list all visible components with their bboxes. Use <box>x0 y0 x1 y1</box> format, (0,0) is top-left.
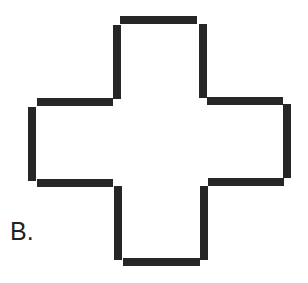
segment-left-arm-bottom-edge <box>37 179 113 187</box>
segment-top-edge <box>120 16 197 24</box>
segment-bottom-edge <box>123 258 200 266</box>
figure-label: B. <box>10 219 34 244</box>
segment-left-arm-top-edge <box>37 98 113 106</box>
segment-top-arm-right-edge <box>199 24 207 98</box>
segment-bottom-arm-right-edge <box>200 186 208 260</box>
segment-right-arm-top-edge <box>207 97 283 105</box>
segment-right-arm-bottom-edge <box>208 178 284 186</box>
segment-bottom-arm-left-edge <box>114 186 122 260</box>
segment-left-edge <box>28 107 36 181</box>
segment-top-arm-left-edge <box>113 25 121 99</box>
segment-right-edge <box>283 104 291 178</box>
